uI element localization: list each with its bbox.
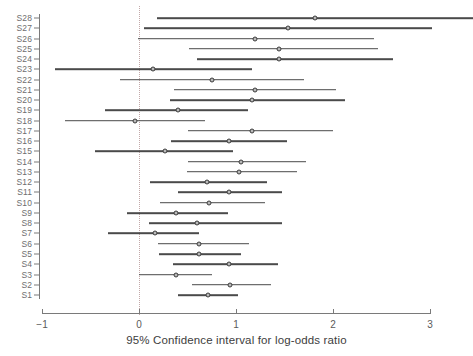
y-axis-tick-label: S6 bbox=[21, 239, 32, 249]
y-axis-tick bbox=[34, 274, 39, 275]
estimate-point bbox=[312, 16, 317, 21]
y-axis-spine bbox=[39, 14, 40, 299]
x-axis-tick bbox=[42, 309, 43, 314]
confidence-interval-bar bbox=[170, 99, 345, 101]
estimate-point bbox=[228, 282, 233, 287]
y-axis-tick-label: S18 bbox=[17, 116, 32, 126]
y-axis-tick-label: S26 bbox=[17, 34, 32, 44]
x-axis-tick bbox=[236, 309, 237, 314]
estimate-point bbox=[197, 251, 202, 256]
y-axis-tick bbox=[34, 171, 39, 172]
estimate-point bbox=[253, 87, 258, 92]
y-axis-tick-label: S17 bbox=[17, 126, 32, 136]
x-axis-tick bbox=[333, 309, 334, 314]
y-axis-tick-label: S10 bbox=[17, 198, 32, 208]
estimate-point bbox=[253, 36, 258, 41]
estimate-point bbox=[205, 293, 210, 298]
estimate-point bbox=[150, 67, 155, 72]
estimate-point bbox=[209, 77, 214, 82]
estimate-point bbox=[206, 200, 211, 205]
y-axis-tick bbox=[34, 223, 39, 224]
y-axis-tick-label: S20 bbox=[17, 95, 32, 105]
y-axis-tick bbox=[34, 100, 39, 101]
confidence-interval-bar bbox=[149, 222, 282, 224]
confidence-interval-bar bbox=[187, 171, 298, 173]
y-axis-tick-label: S23 bbox=[17, 64, 32, 74]
y-axis-tick-label: S2 bbox=[21, 280, 32, 290]
y-axis-tick-label: S13 bbox=[17, 167, 32, 177]
y-axis-tick-label: S22 bbox=[17, 75, 32, 85]
estimate-point bbox=[173, 272, 178, 277]
confidence-interval-bar bbox=[197, 58, 393, 60]
y-axis-tick bbox=[34, 130, 39, 131]
y-axis-tick-label: S4 bbox=[21, 259, 32, 269]
estimate-point bbox=[249, 128, 254, 133]
x-axis-tick-label: 1 bbox=[233, 319, 239, 330]
y-axis-tick-label: S9 bbox=[21, 208, 32, 218]
estimate-point bbox=[238, 159, 243, 164]
y-axis-tick-label: S3 bbox=[21, 270, 32, 280]
estimate-point bbox=[197, 241, 202, 246]
y-axis-tick-label: S5 bbox=[21, 249, 32, 259]
y-axis-tick-label: S24 bbox=[17, 54, 32, 64]
y-axis-tick-label: S28 bbox=[17, 13, 32, 23]
estimate-point bbox=[250, 98, 255, 103]
estimate-point bbox=[133, 118, 138, 123]
estimate-point bbox=[195, 221, 200, 226]
y-axis-tick-label: S21 bbox=[17, 85, 32, 95]
zero-reference-line bbox=[139, 6, 140, 315]
estimate-point bbox=[227, 262, 232, 267]
y-axis-tick-label: S16 bbox=[17, 136, 32, 146]
y-axis-tick bbox=[34, 243, 39, 244]
estimate-point bbox=[204, 180, 209, 185]
y-axis-tick bbox=[34, 192, 39, 193]
estimate-point bbox=[173, 210, 178, 215]
y-axis-tick-label: S14 bbox=[17, 157, 32, 167]
y-axis-tick bbox=[34, 18, 39, 19]
y-axis-tick bbox=[34, 264, 39, 265]
confidence-interval-bar bbox=[188, 130, 333, 132]
y-axis-tick bbox=[34, 69, 39, 70]
y-axis-tick bbox=[34, 295, 39, 296]
x-axis-tick-label: 2 bbox=[330, 319, 336, 330]
estimate-point bbox=[227, 139, 232, 144]
y-axis-tick-label: S11 bbox=[17, 187, 32, 197]
y-axis-tick bbox=[34, 79, 39, 80]
y-axis-tick bbox=[34, 59, 39, 60]
x-axis-tick bbox=[139, 309, 140, 314]
confidence-interval-bar bbox=[160, 202, 265, 204]
y-axis-tick bbox=[34, 28, 39, 29]
estimate-point bbox=[152, 231, 157, 236]
y-axis-tick-label: S12 bbox=[17, 177, 32, 187]
y-axis-tick bbox=[34, 141, 39, 142]
x-axis-tick-label: 3 bbox=[427, 319, 433, 330]
estimate-point bbox=[276, 57, 281, 62]
y-axis-tick-label: S1 bbox=[21, 290, 32, 300]
estimate-point bbox=[175, 108, 180, 113]
y-axis-tick bbox=[34, 151, 39, 152]
estimate-point bbox=[227, 190, 232, 195]
estimate-point bbox=[286, 26, 291, 31]
y-axis-tick bbox=[34, 161, 39, 162]
y-axis-tick bbox=[34, 48, 39, 49]
y-axis-tick-label: S8 bbox=[21, 218, 32, 228]
x-axis-tick-label: −1 bbox=[36, 319, 47, 330]
confidence-interval-bar bbox=[189, 48, 377, 50]
x-axis-title: 95% Confidence interval for log-odds rat… bbox=[0, 334, 473, 346]
y-axis-tick-label: S15 bbox=[17, 146, 32, 156]
y-axis-tick bbox=[34, 284, 39, 285]
y-axis-tick bbox=[34, 253, 39, 254]
estimate-point bbox=[276, 46, 281, 51]
y-axis-tick-label: S19 bbox=[17, 105, 32, 115]
y-axis-tick bbox=[34, 38, 39, 39]
x-axis-tick-label: 0 bbox=[136, 319, 142, 330]
y-axis-tick bbox=[34, 89, 39, 90]
y-axis-tick-label: S7 bbox=[21, 228, 32, 238]
estimate-point bbox=[236, 169, 241, 174]
y-axis-tick-label: S25 bbox=[17, 44, 32, 54]
estimate-point bbox=[163, 149, 168, 154]
y-axis-tick bbox=[34, 120, 39, 121]
confidence-interval-bar bbox=[188, 161, 306, 163]
x-axis-tick bbox=[430, 309, 431, 314]
y-axis-tick bbox=[34, 182, 39, 183]
